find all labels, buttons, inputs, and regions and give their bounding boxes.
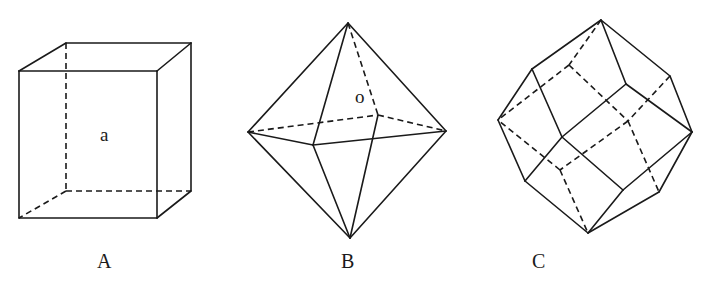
octahedron-edges [248,23,446,238]
polyhedra-diagram: a A o B C [0,0,706,284]
visible-edge [313,145,350,238]
cube-face-label: a [100,124,109,145]
hidden-edge [498,120,560,170]
visible-edge [248,132,350,238]
rhombic-dodecahedron-edges [498,20,692,233]
visible-edge [498,69,532,120]
visible-edge [532,69,562,137]
visible-edge [623,132,692,190]
visible-edge [19,43,66,71]
visible-edge [562,137,623,190]
hidden-edge [628,76,670,121]
visible-edge [525,137,562,181]
visible-edge [588,190,623,233]
visible-edge [498,120,525,181]
visible-edge [313,131,446,145]
hidden-edge [378,115,446,131]
visible-edge [348,23,446,131]
visible-edge [659,132,692,192]
rhombic-dodecahedron-caption: C [532,250,545,272]
cube-figure: a A [19,43,191,272]
hidden-edge [19,191,66,218]
visible-edge [350,131,446,238]
visible-edge [157,191,191,218]
hidden-edge [248,115,378,132]
hidden-edge [560,121,628,170]
visible-edge [350,115,378,238]
octahedron-center-label: o [355,86,365,107]
cube-caption: A [97,250,112,272]
visible-edge [588,192,659,233]
visible-edge [157,43,191,71]
hidden-edge [569,20,601,65]
hidden-edge [560,170,588,233]
visible-edge [525,181,588,233]
octahedron-figure: o B [248,23,446,272]
rhombic-dodecahedron-figure: C [498,20,692,272]
visible-edge [532,20,601,69]
hidden-edge [569,65,628,121]
octahedron-caption: B [341,250,354,272]
